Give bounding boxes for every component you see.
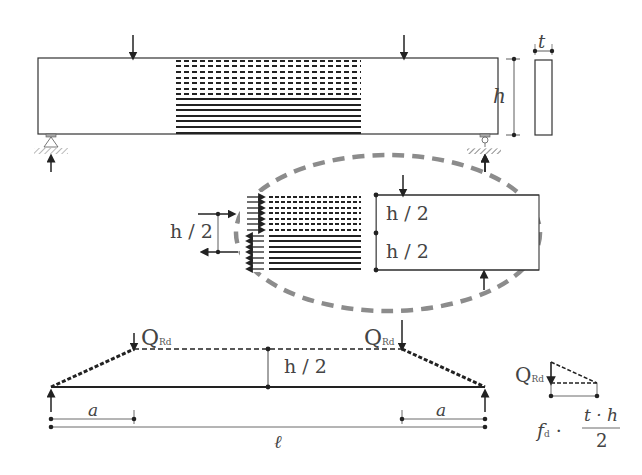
span-dimensions xyxy=(51,410,485,427)
strut-left xyxy=(51,349,134,387)
label-denominator-2: 2 xyxy=(596,432,607,450)
label-triangle-qrd: QRd xyxy=(515,365,544,385)
strut-right xyxy=(402,349,485,387)
label-span-l: ℓ xyxy=(274,433,282,451)
compression-dashes xyxy=(176,61,361,94)
pin-support-icon xyxy=(34,134,68,172)
detail-view xyxy=(198,149,540,311)
tension-lines xyxy=(176,99,361,133)
label-qrd-left: QRd xyxy=(141,327,172,349)
label-height-h: h xyxy=(493,86,506,106)
label-lower-h2: h / 2 xyxy=(386,242,429,261)
label-shear-span-left: a xyxy=(88,402,98,419)
label-truss-h2: h / 2 xyxy=(284,357,327,376)
strut-tie-model xyxy=(49,320,488,429)
label-thickness-t: t xyxy=(538,33,545,51)
cross-section xyxy=(533,44,554,135)
height-dimension xyxy=(506,57,520,137)
label-resistance-fd: fd · xyxy=(537,421,562,440)
label-qrd-right: QRd xyxy=(364,327,395,349)
beam-outline xyxy=(38,58,498,134)
label-couple-h2: h / 2 xyxy=(170,222,213,241)
label-numerator-th: t · h xyxy=(584,407,618,424)
label-upper-h2: h / 2 xyxy=(386,204,429,223)
label-shear-span-right: a xyxy=(436,402,446,419)
